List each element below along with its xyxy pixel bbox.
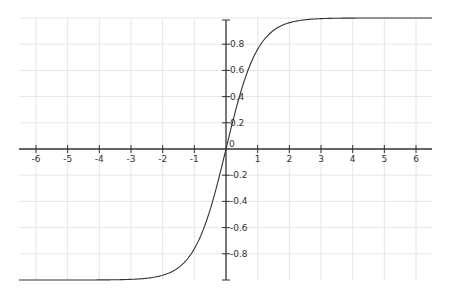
x-tick-label: 3 [318, 154, 324, 164]
y-tick-label: -0.2 [230, 170, 248, 180]
x-tick-label: -6 [31, 154, 40, 164]
x-tick-label: -1 [190, 154, 199, 164]
y-tick-label: -0.4 [230, 196, 248, 206]
x-tick-label: 6 [413, 154, 419, 164]
y-tick-label: -0.6 [230, 223, 248, 233]
y-tick-label: 0.4 [230, 92, 245, 102]
x-tick-label: 4 [350, 154, 356, 164]
x-tick-label: 5 [381, 154, 387, 164]
x-tick-label: -3 [126, 154, 135, 164]
y-tick-label: 0.6 [230, 65, 245, 75]
tanh-chart: -6-5-4-3-2-10123456 0.80.60.40.2-0.2-0.4… [0, 0, 449, 298]
x-tick-label: -5 [63, 154, 72, 164]
x-tick-label: -4 [95, 154, 104, 164]
x-tick-label: 2 [286, 154, 292, 164]
x-tick-label: 1 [255, 154, 261, 164]
y-tick-label: 0.8 [230, 39, 245, 49]
x-tick-label: -2 [158, 154, 167, 164]
y-tick-label: -0.8 [230, 249, 248, 259]
x-tick-label: 0 [229, 139, 235, 149]
